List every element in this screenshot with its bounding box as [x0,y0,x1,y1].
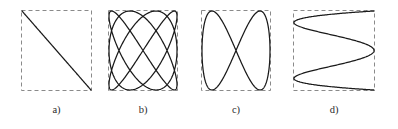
lissajous-plot-d [287,4,381,97]
panel-c: c) [201,0,271,129]
panel-label-a: a) [21,104,92,116]
lissajous-curve-c [202,11,270,90]
lissajous-curve-d [294,11,374,90]
bounding-box-d [294,11,375,91]
panel-a: a) [21,0,92,129]
panel-label-b: b) [108,104,178,116]
lissajous-curve-a [22,11,91,90]
panel-d: d) [293,0,375,129]
lissajous-plot-c [195,4,277,97]
lissajous-figure: a)b)c)d) [0,0,398,129]
lissajous-plot-a [15,4,98,97]
panel-label-d: d) [293,104,375,116]
panel-b: b) [108,0,178,129]
panel-label-c: c) [201,104,271,116]
lissajous-plot-b [102,4,184,97]
lissajous-curve-b [109,11,177,90]
